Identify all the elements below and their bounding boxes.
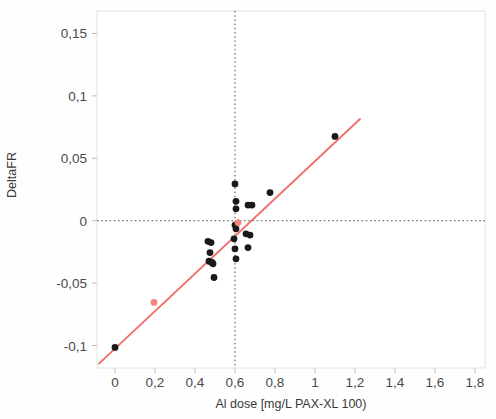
plot-area-frame: [97, 11, 485, 368]
data-point: [267, 189, 274, 196]
x-tick-label: 1,4: [386, 375, 405, 390]
y-tick-label: 0,05: [61, 151, 87, 166]
scatter-plot: 00,20,40,60,811,21,41,61,8 0,150,10,050-…: [0, 0, 496, 419]
data-point: [210, 260, 217, 267]
data-point: [112, 344, 119, 351]
x-tick-label: 1,6: [426, 375, 445, 390]
x-tick-label: 0,8: [266, 375, 285, 390]
x-tick-label: 1,8: [466, 375, 485, 390]
data-point: [247, 232, 254, 239]
y-axis-ticks: 0,150,10,050-0,05-0,1: [56, 26, 97, 353]
y-tick-label: 0,1: [68, 89, 87, 104]
data-point: [245, 244, 252, 251]
y-tick-label: -0,05: [56, 276, 87, 291]
data-point: [233, 198, 240, 205]
x-axis-label: Al dose [mg/L PAX-XL 100): [215, 397, 366, 411]
data-point: [233, 225, 240, 232]
data-point: [151, 299, 158, 306]
x-tick-label: 1,2: [346, 375, 365, 390]
y-tick-label: 0: [79, 214, 87, 229]
data-point: [235, 219, 242, 226]
y-axis-label: DeltaFR: [5, 152, 19, 198]
x-axis-ticks: 00,20,40,60,811,21,41,61,8: [111, 368, 484, 390]
x-tick-label: 0: [111, 375, 119, 390]
x-tick-label: 0,2: [146, 375, 165, 390]
data-point: [332, 133, 339, 140]
data-point: [233, 205, 240, 212]
chart-figure: 00,20,40,60,811,21,41,61,8 0,150,10,050-…: [0, 0, 496, 419]
y-tick-label: -0,1: [64, 339, 87, 354]
x-tick-label: 0,6: [226, 375, 245, 390]
data-point: [232, 180, 239, 187]
data-point: [208, 239, 215, 246]
data-point: [232, 245, 239, 252]
data-point: [207, 249, 214, 256]
data-point: [231, 235, 238, 242]
data-point: [211, 274, 218, 281]
x-tick-label: 1: [311, 375, 319, 390]
x-tick-label: 0,4: [186, 375, 205, 390]
data-point: [233, 255, 240, 262]
data-point: [249, 202, 256, 209]
y-tick-label: 0,15: [61, 26, 87, 41]
